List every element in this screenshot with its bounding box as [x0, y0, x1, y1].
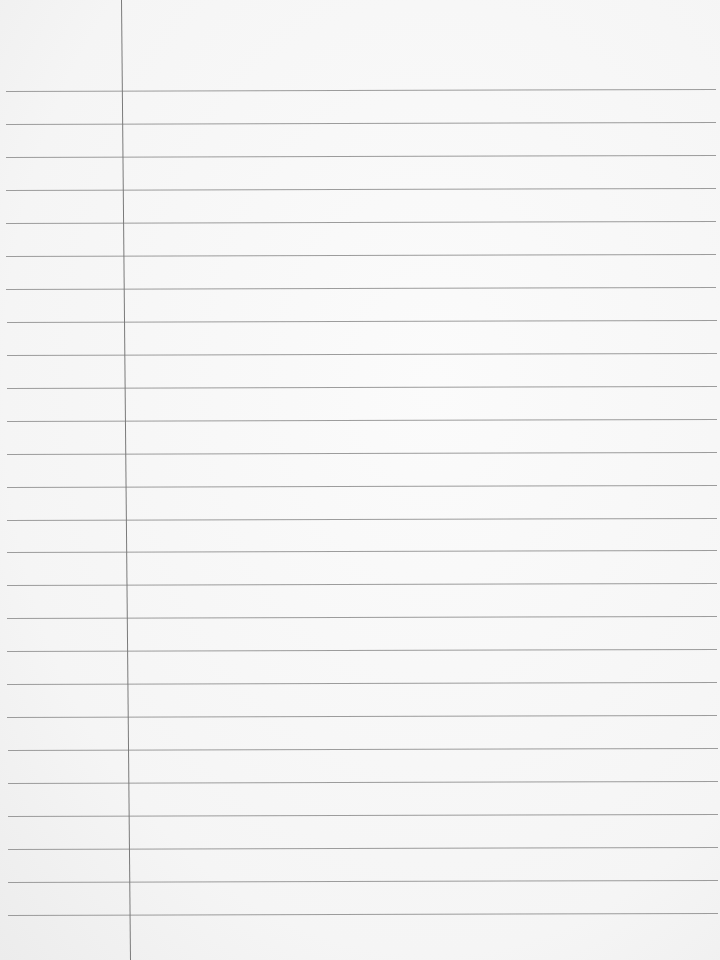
ruled-line [7, 550, 717, 553]
ruled-line [7, 353, 717, 356]
ruled-line [7, 320, 717, 323]
ruled-line [7, 583, 717, 586]
ruled-line [8, 814, 718, 817]
ruled-line [6, 188, 716, 191]
ruled-line [6, 89, 716, 92]
ruled-line [7, 715, 717, 718]
ruled-line [8, 748, 718, 751]
ruled-line [8, 781, 718, 784]
ruled-line [7, 649, 717, 652]
ruled-line [6, 221, 716, 224]
ruled-line [7, 485, 717, 488]
ruled-line [8, 847, 718, 850]
lined-paper [0, 0, 720, 960]
ruled-line [7, 386, 717, 389]
ruled-line [8, 913, 718, 916]
ruled-line [7, 616, 717, 619]
ruled-line [8, 880, 718, 883]
ruled-line [7, 452, 717, 455]
ruled-line [7, 518, 717, 521]
ruled-line [6, 287, 716, 290]
ruled-line [6, 155, 716, 158]
ruled-line [7, 682, 717, 685]
ruled-line [6, 122, 716, 125]
ruled-line [7, 419, 717, 422]
ruled-line [6, 254, 716, 257]
